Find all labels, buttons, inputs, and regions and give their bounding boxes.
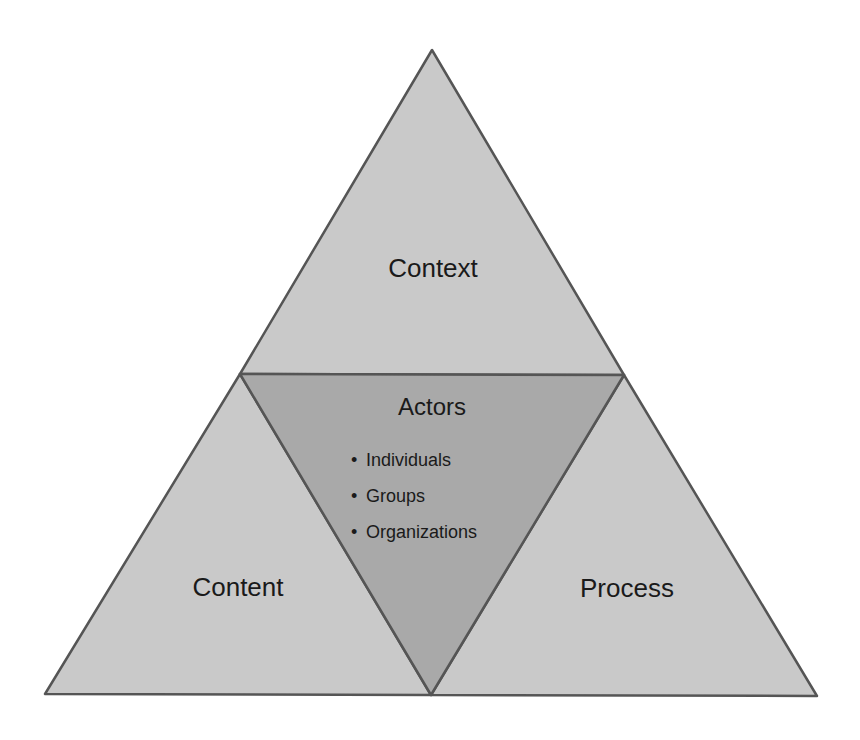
label-actors: Actors bbox=[398, 393, 466, 420]
top-triangle-context bbox=[240, 50, 624, 375]
label-process: Process bbox=[580, 573, 674, 603]
bullet-icon: • bbox=[351, 486, 357, 506]
triangle-diagram: Context Content Process Actors • Individ… bbox=[0, 0, 860, 740]
actors-item-organizations: Organizations bbox=[366, 522, 477, 542]
actors-item-individuals: Individuals bbox=[366, 450, 451, 470]
label-content: Content bbox=[192, 572, 284, 602]
actors-item-groups: Groups bbox=[366, 486, 425, 506]
bullet-icon: • bbox=[351, 450, 357, 470]
bullet-icon: • bbox=[351, 522, 357, 542]
label-context: Context bbox=[388, 253, 478, 283]
